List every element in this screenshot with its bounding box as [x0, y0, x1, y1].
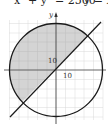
y-axis-label: y — [48, 11, 54, 19]
y-tick-label: 10 — [48, 57, 57, 65]
region-diagram: y 10 10 — [0, 0, 108, 124]
y-axis-arrow-icon — [54, 12, 57, 17]
x-tick-label: 10 — [63, 72, 72, 80]
